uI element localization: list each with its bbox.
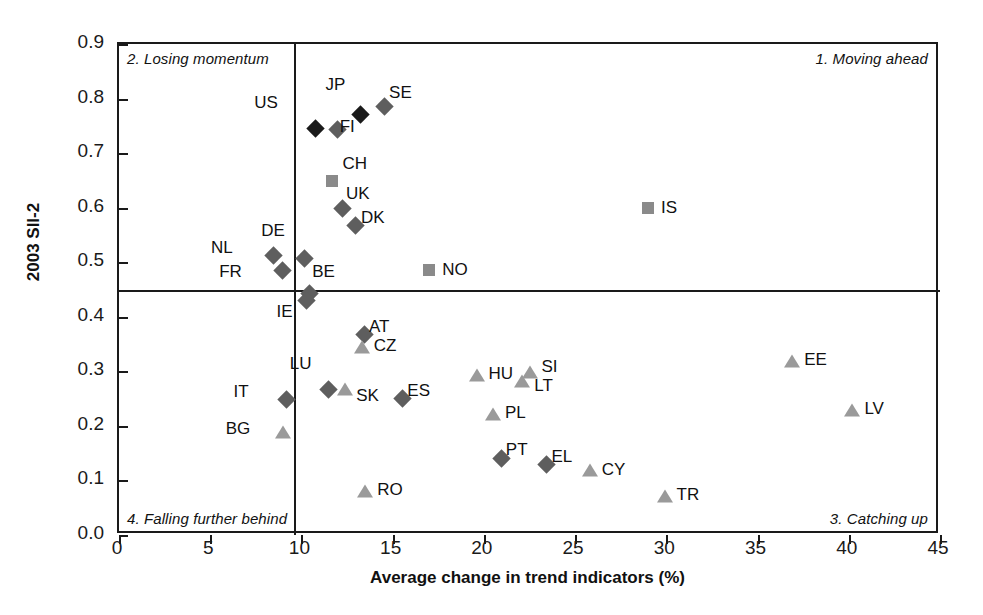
- data-point-label-pl: PL: [505, 404, 526, 421]
- y-tick-0.0: [119, 535, 128, 537]
- x-tick-45: [940, 535, 942, 544]
- data-point-label-cy: CY: [602, 461, 626, 478]
- x-tick-label-10: 10: [289, 537, 310, 559]
- scatter-chart-figure: 0.00.10.20.30.40.50.60.70.80.9 051015202…: [0, 0, 983, 615]
- data-point-hu: [469, 368, 485, 381]
- data-point-lv: [844, 403, 860, 416]
- x-tick-label-35: 35: [745, 537, 766, 559]
- data-point-cy: [582, 463, 598, 476]
- x-tick-label-20: 20: [471, 537, 492, 559]
- data-point-us: [306, 119, 324, 137]
- reference-line-vertical: [294, 44, 296, 535]
- data-point-is: [642, 202, 654, 214]
- x-tick-5: [210, 535, 212, 544]
- x-tick-25: [575, 535, 577, 544]
- y-tick-label-0.8: 0.8: [0, 86, 104, 108]
- data-point-label-nl: NL: [211, 239, 233, 256]
- y-tick-0.4: [119, 317, 128, 319]
- data-point-no: [423, 264, 435, 276]
- x-tick-40: [849, 535, 851, 544]
- data-point-label-lu: LU: [290, 355, 312, 372]
- data-point-label-de: DE: [261, 222, 285, 239]
- data-point-it: [277, 390, 295, 408]
- data-point-label-be: BE: [312, 263, 335, 280]
- reference-line-horizontal: [119, 290, 940, 292]
- x-tick-20: [484, 535, 486, 544]
- y-tick-label-0.2: 0.2: [0, 413, 104, 435]
- data-point-label-ro: RO: [377, 481, 403, 498]
- data-point-label-no: NO: [442, 261, 468, 278]
- data-point-label-cz: CZ: [374, 337, 397, 354]
- x-tick-label-15: 15: [380, 537, 401, 559]
- y-axis-title: 2003 SII-2: [24, 132, 44, 352]
- y-tick-label-0.4: 0.4: [0, 304, 104, 326]
- data-point-label-pt: PT: [506, 441, 528, 458]
- y-tick-0.5: [119, 262, 128, 264]
- quadrant-label-losing-momentum: 2. Losing momentum: [127, 50, 269, 67]
- data-point-label-ee: EE: [804, 351, 827, 368]
- data-point-tr: [657, 490, 673, 503]
- quadrant-label-falling-further-behind: 4. Falling further behind: [127, 510, 287, 527]
- data-point-nl: [264, 246, 282, 264]
- y-tick-label-0.3: 0.3: [0, 358, 104, 380]
- data-point-de: [295, 250, 313, 268]
- quadrant-label-catching-up: 3. Catching up: [830, 510, 928, 527]
- y-tick-label-0.9: 0.9: [0, 31, 104, 53]
- data-point-label-fr: FR: [219, 263, 242, 280]
- data-point-pl: [485, 408, 501, 421]
- data-point-lt: [514, 375, 530, 388]
- y-tick-0.1: [119, 480, 128, 482]
- data-point-bg: [275, 425, 291, 438]
- y-tick-0.7: [119, 153, 128, 155]
- data-point-sk: [337, 382, 353, 395]
- x-tick-label-30: 30: [654, 537, 675, 559]
- x-tick-30: [666, 535, 668, 544]
- data-point-ch: [326, 175, 338, 187]
- y-tick-label-0.1: 0.1: [0, 467, 104, 489]
- data-point-label-lv: LV: [864, 400, 884, 417]
- data-point-label-jp: JP: [326, 76, 346, 93]
- data-point-label-ch: CH: [342, 155, 367, 172]
- data-point-label-is: IS: [661, 199, 677, 216]
- data-point-cz: [354, 340, 370, 353]
- data-point-label-at: AT: [369, 318, 389, 335]
- y-tick-0.6: [119, 208, 128, 210]
- data-point-label-el: EL: [551, 448, 572, 465]
- y-tick-label-0.5: 0.5: [0, 249, 104, 271]
- data-point-label-it: IT: [233, 383, 248, 400]
- data-point-label-fi: FI: [340, 118, 355, 135]
- data-point-label-sk: SK: [356, 387, 379, 404]
- quadrant-label-moving-ahead: 1. Moving ahead: [816, 50, 928, 67]
- y-tick-label-0.0: 0.0: [0, 522, 104, 544]
- y-tick-0.9: [119, 44, 128, 46]
- plot-area: 2. Losing momentum 1. Moving ahead 4. Fa…: [117, 42, 938, 533]
- data-point-label-us: US: [254, 94, 278, 111]
- data-point-lu: [319, 380, 337, 398]
- data-point-label-hu: HU: [489, 365, 514, 382]
- data-point-label-tr: TR: [677, 486, 700, 503]
- data-point-ro: [357, 485, 373, 498]
- x-tick-35: [758, 535, 760, 544]
- x-tick-label-25: 25: [563, 537, 584, 559]
- data-point-ee: [784, 354, 800, 367]
- data-point-label-bg: BG: [226, 420, 251, 437]
- data-point-label-se: SE: [389, 84, 412, 101]
- x-tick-label-45: 45: [927, 537, 948, 559]
- y-tick-0.3: [119, 371, 128, 373]
- data-point-label-uk: UK: [346, 185, 370, 202]
- data-point-label-si: SI: [542, 358, 558, 375]
- y-tick-0.2: [119, 426, 128, 428]
- data-point-label-ie: IE: [277, 303, 293, 320]
- x-axis-title: Average change in trend indicators (%): [117, 568, 938, 588]
- x-tick-10: [301, 535, 303, 544]
- x-tick-label-40: 40: [836, 537, 857, 559]
- data-point-label-es: ES: [407, 382, 430, 399]
- data-point-fr: [273, 261, 291, 279]
- y-tick-label-0.6: 0.6: [0, 195, 104, 217]
- y-tick-label-0.7: 0.7: [0, 140, 104, 162]
- data-point-label-dk: DK: [361, 209, 385, 226]
- x-tick-15: [393, 535, 395, 544]
- y-tick-0.8: [119, 99, 128, 101]
- data-point-label-lt: LT: [534, 377, 553, 394]
